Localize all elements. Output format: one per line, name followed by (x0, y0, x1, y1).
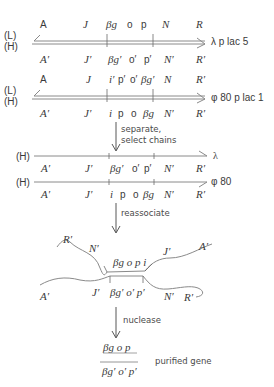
gene-N-prime: N′ (163, 53, 174, 65)
strand-label-L: (L) (4, 85, 16, 96)
gene-J-prime: J′ (85, 188, 93, 200)
step-label-line1: separate, (121, 124, 161, 134)
gene-A-prime: A′ (198, 240, 209, 252)
panel-lambda-H: (H) λ A′ J′ βg′ o′ p′ N′ R′ (16, 150, 218, 174)
strand-H (32, 38, 205, 48)
gene-J: J (86, 73, 92, 85)
gene-o-prime: o′ (130, 74, 138, 85)
strand-label-H: (H) (16, 151, 30, 162)
gene-i: i (110, 188, 113, 200)
step-label: reassociate (121, 208, 170, 218)
panel-phi80-plac1: A J i′ p′ o′ βg′ N R′ (L) (H) φ 80 p lac… (4, 73, 264, 119)
gene-o: o (127, 19, 133, 30)
gene-R-prime: R′ (195, 188, 206, 200)
gene-o: o (133, 189, 139, 200)
gene-p: p (120, 189, 126, 200)
gene-bg-prime: βg′ (107, 53, 122, 65)
gene-N-prime: N′ (163, 162, 174, 174)
gene-R: R (195, 18, 203, 30)
result-top-strand: βg o p (102, 341, 131, 353)
gene-N-prime: N′ (88, 242, 99, 254)
gene-i: i (109, 107, 112, 119)
step-separate: separate, select chains (112, 122, 177, 151)
panel-lambda-plac5: A J βg o p N R (L) (H) λ p lac 5 A′ J′ β… (4, 18, 249, 65)
strand-label-H: (H) (16, 177, 30, 188)
gene-A-prime: A′ (39, 107, 50, 119)
panel-phi80-H: (H) φ 80 A′ J′ i p o βg N′ R′ (16, 176, 232, 200)
gene-region-lower: βg′ o′ p′ (109, 286, 145, 298)
gene-N-prime: N′ (163, 188, 174, 200)
strand-H (32, 93, 205, 103)
strand-L (34, 90, 205, 96)
gene-purification-diagram: A J βg o p N R (L) (H) λ p lac 5 A′ J′ β… (0, 0, 274, 387)
purified-gene-result: βg o p βg′ o′ p′ purified gene (100, 341, 212, 377)
step-nuclease: nuclease (112, 307, 161, 338)
gene-region-upper: βg o p i (112, 256, 146, 268)
result-bottom-strand: βg′ o′ p′ (101, 365, 137, 377)
gene-bg: βg (142, 107, 154, 119)
gene-R-prime: R′ (195, 73, 206, 85)
strand-H (34, 182, 207, 187)
gene-bg-prime: βg′ (109, 162, 124, 174)
strand-H (34, 151, 207, 156)
gene-p-prime: p′ (144, 163, 152, 174)
gene-J-prime: J′ (84, 107, 92, 119)
gene-A-prime: A′ (39, 290, 50, 302)
strand-L (34, 35, 205, 41)
down-arrow-icon (112, 122, 120, 151)
gene-A: A (40, 19, 47, 30)
gene-p: p (118, 108, 124, 119)
gene-A-prime: A′ (39, 53, 50, 65)
gene-N: N (163, 73, 172, 85)
strand-label-L: (L) (4, 30, 16, 41)
gene-J-prime: J′ (92, 286, 100, 298)
gene-bg-prime: βg′ (140, 73, 155, 85)
step-label: nuclease (123, 315, 161, 325)
gene-N: N (161, 18, 170, 30)
step-label-line2: select chains (121, 135, 177, 145)
gene-R-prime: R′ (183, 291, 194, 303)
gene-R-prime: R′ (195, 53, 206, 65)
gene-p: p (141, 19, 147, 30)
strand-label-H: (H) (4, 96, 18, 107)
gene-J-prime: J′ (84, 53, 92, 65)
gene-A-prime: A′ (40, 188, 51, 200)
gene-R-prime: R′ (62, 233, 73, 245)
gene-J: J (83, 18, 89, 30)
phage-name-lambda-plac5: λ p lac 5 (211, 36, 249, 47)
gene-A: A (40, 74, 47, 85)
phage-name-phi80: φ 80 (211, 176, 232, 187)
gene-R-prime: R′ (195, 107, 206, 119)
result-caption: purified gene (155, 356, 212, 366)
gene-N-prime: N′ (163, 290, 174, 302)
gene-R-prime: R′ (195, 162, 206, 174)
gene-p-prime: p′ (118, 74, 126, 85)
down-arrow-icon (112, 203, 120, 233)
gene-o: o (131, 108, 137, 119)
gene-p-prime: p′ (144, 54, 152, 65)
gene-A-prime: A′ (40, 162, 51, 174)
gene-bg: βg (142, 188, 154, 200)
heteroduplex: R′ N′ βg o p i J′ A′ A′ J′ βg′ o′ p′ N′ … (39, 233, 212, 303)
gene-o-prime: o′ (132, 163, 140, 174)
phage-name-phi80-plac1: φ 80 p lac 1 (211, 92, 264, 103)
phage-name-lambda: λ (213, 150, 218, 161)
gene-bg: βg (105, 18, 117, 30)
gene-N-prime: N′ (163, 107, 174, 119)
gene-J-prime: J′ (163, 245, 171, 257)
gene-J-prime: J′ (85, 162, 93, 174)
down-arrow-icon (112, 307, 120, 338)
step-reassociate: reassociate (112, 203, 170, 233)
strand-label-H: (H) (4, 41, 18, 52)
gene-o-prime: o′ (129, 54, 137, 65)
region-tick-left (104, 266, 107, 272)
gene-i-prime: i′ (109, 73, 115, 85)
